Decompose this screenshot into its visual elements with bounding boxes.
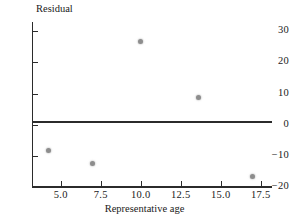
scatter-points-layer <box>0 0 289 223</box>
data-point <box>90 161 95 166</box>
data-point <box>196 95 201 100</box>
data-point <box>250 174 255 179</box>
data-point <box>46 148 51 153</box>
data-point <box>138 39 143 44</box>
x-axis-title: Representative age <box>0 203 289 214</box>
residual-plot-figure: Residual 3020100−10−20 5.07.510.012.515.… <box>0 0 289 223</box>
